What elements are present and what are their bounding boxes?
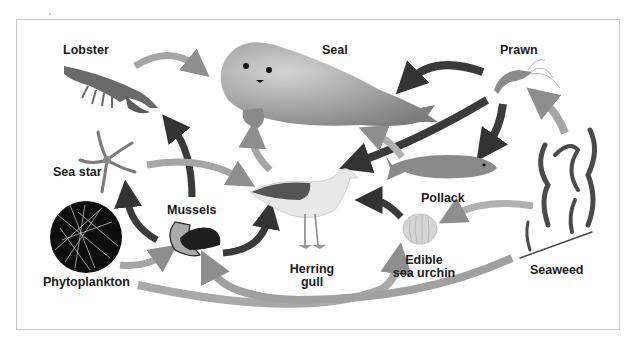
label-lobster: Lobster <box>63 44 109 57</box>
arrow-mussels-to-seastar <box>127 197 157 240</box>
label-herring-gull-line2: gull <box>287 276 337 289</box>
mussels-illustration <box>170 222 220 256</box>
label-pollack: Pollack <box>421 192 465 205</box>
pollack-illustration <box>386 155 497 180</box>
arrow-lobster-to-seal <box>135 56 196 67</box>
label-sea-star: Sea star <box>53 166 102 179</box>
arrow-seaweed-to-prawn <box>542 100 565 133</box>
label-herring-gull: Herring gull <box>287 263 337 289</box>
label-mussels: Mussels <box>167 204 216 217</box>
arrow-urchin-to-gull <box>372 200 401 217</box>
label-seal: Seal <box>322 44 348 57</box>
phytoplankton-illustration <box>50 201 122 273</box>
label-prawn: Prawn <box>500 44 538 57</box>
arrow-mussels-to-gull <box>223 218 268 253</box>
prawn-illustration <box>494 60 560 94</box>
label-sea-urchin: Edible sea urchin <box>388 254 460 280</box>
arrow-seaweed-to-mussels <box>210 258 512 300</box>
arrow-prawn-to-pollack <box>488 104 503 145</box>
sea-urchin-illustration <box>403 214 437 244</box>
arrow-seaweed-to-urchin <box>454 203 533 215</box>
sea-star-illustration <box>80 132 135 192</box>
arrow-prawn-to-seal <box>410 65 483 80</box>
arrow-phyto-to-mussels <box>120 255 163 266</box>
seaweed-illustration <box>520 130 595 258</box>
label-sea-urchin-line2: sea urchin <box>388 267 460 280</box>
label-phytoplankton: Phytoplankton <box>43 276 130 289</box>
herring-gull-illustration <box>250 169 358 250</box>
lobster-illustration <box>64 66 158 113</box>
arrow-gull-to-seal <box>253 138 270 170</box>
label-seaweed: Seaweed <box>530 264 584 277</box>
